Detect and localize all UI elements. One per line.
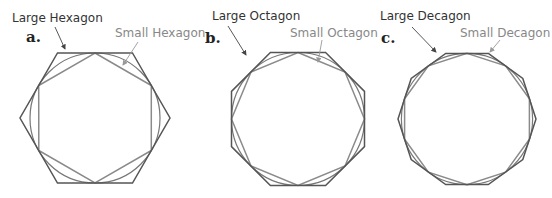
large-hexagon-arrow	[55, 27, 65, 49]
large-decagon-label: Large Decagon	[380, 9, 471, 23]
small-octagon-arrow	[318, 40, 322, 62]
panel-letter-c: c.	[381, 29, 395, 47]
panel-c: Large Decagon c. Small Decagon	[380, 9, 550, 185]
large-decagon-arrow	[412, 27, 436, 52]
circle-c	[401, 53, 532, 184]
panel-a: Large Hexagon a. Small Hexagon	[12, 11, 205, 183]
large-octagon-label: Large Octagon	[212, 9, 300, 23]
circle-a	[30, 53, 160, 183]
large-hexagon	[20, 53, 170, 183]
large-octagon	[232, 53, 365, 186]
panel-letter-b: b.	[205, 29, 221, 47]
panel-b: Large Octagon b. Small Octagon	[205, 9, 378, 186]
small-decagon	[405, 53, 530, 184]
small-hexagon-label: Small Hexagon	[115, 26, 205, 40]
panel-letter-a: a.	[26, 28, 41, 46]
large-hexagon-label: Large Hexagon	[12, 11, 103, 25]
small-decagon-arrow	[490, 40, 500, 52]
small-octagon-label: Small Octagon	[290, 26, 378, 40]
small-decagon-label: Small Decagon	[460, 26, 550, 40]
small-hexagon	[39, 53, 152, 183]
large-octagon-arrow	[228, 26, 246, 55]
polygon-diagram: Large Hexagon a. Small Hexagon Large Oct…	[0, 0, 552, 198]
large-decagon	[398, 53, 536, 184]
